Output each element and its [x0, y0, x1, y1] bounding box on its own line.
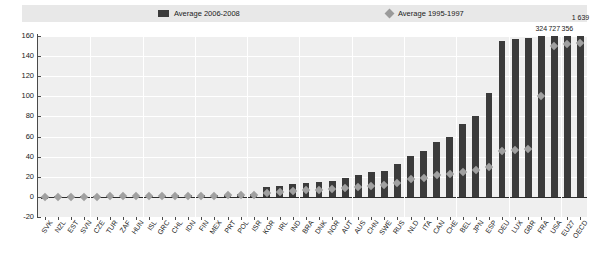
- gridline-vertical: [195, 36, 196, 217]
- gridline-vertical: [247, 36, 248, 217]
- diamond-icon: [485, 162, 493, 170]
- diamond-icon: [302, 186, 310, 194]
- data-point-marker: [264, 190, 270, 196]
- diamond-icon: [498, 146, 506, 154]
- x-tick-mark: [358, 217, 359, 220]
- data-point-marker: [355, 184, 361, 190]
- diamond-icon: [511, 145, 519, 153]
- legend-label-bar-series: Average 2006-2008: [174, 9, 240, 18]
- x-tick-mark: [149, 217, 150, 220]
- x-tick-mark: [424, 217, 425, 220]
- x-tick-mark: [580, 217, 581, 220]
- data-point-marker: [512, 147, 518, 153]
- data-point-marker: [421, 175, 427, 181]
- data-point-marker: [277, 189, 283, 195]
- y-tick-mark: [38, 116, 41, 117]
- data-point-marker: [473, 167, 479, 173]
- y-tick-mark: [38, 217, 41, 218]
- x-tick-mark: [254, 217, 255, 220]
- y-tick-label: 20: [2, 173, 34, 181]
- chart-container: Average 2006-2008 Average 1995-1997 -200…: [0, 0, 597, 259]
- chart-legend: Average 2006-2008 Average 1995-1997: [22, 5, 587, 22]
- data-point-marker: [198, 193, 204, 199]
- y-tick-mark: [38, 157, 41, 158]
- x-tick-label: NLD: [405, 219, 420, 235]
- x-tick-mark: [515, 217, 516, 220]
- x-tick-mark: [175, 217, 176, 220]
- y-tick-label: 100: [2, 92, 34, 100]
- y-tick-mark: [38, 36, 41, 37]
- bar-value-annotation: 1 639: [566, 14, 594, 22]
- x-tick-mark: [267, 217, 268, 220]
- y-tick-label: -20: [2, 213, 34, 221]
- legend-entry-marker-series: Average 1995-1997: [386, 5, 464, 22]
- x-tick-label: RUS: [392, 219, 407, 236]
- bar: [459, 124, 466, 196]
- y-tick-mark: [38, 76, 41, 77]
- data-point-marker: [447, 171, 453, 177]
- bar: [512, 39, 519, 197]
- data-point-marker: [81, 194, 87, 200]
- data-point-marker: [499, 148, 505, 154]
- diamond-icon: [210, 191, 218, 199]
- bar: [525, 38, 532, 197]
- y-tick-label: 160: [2, 32, 34, 40]
- data-point-marker: [329, 186, 335, 192]
- x-tick-mark: [71, 217, 72, 220]
- x-tick-mark: [463, 217, 464, 220]
- bar: [486, 93, 493, 197]
- data-point-marker: [172, 193, 178, 199]
- gridline-horizontal: [38, 36, 587, 37]
- y-tick-label: 60: [2, 133, 34, 141]
- diamond-icon: [563, 40, 571, 48]
- bar: [446, 137, 453, 197]
- x-tick-mark: [97, 217, 98, 220]
- data-point-marker: [94, 194, 100, 200]
- x-tick-label: CHN: [366, 219, 381, 236]
- data-point-marker: [42, 194, 48, 200]
- diamond-icon: [197, 192, 205, 200]
- x-tick-mark: [201, 217, 202, 220]
- x-tick-label: DEU: [497, 219, 512, 236]
- diamond-icon: [184, 192, 192, 200]
- y-tick-label: 120: [2, 72, 34, 80]
- diamond-icon: [119, 192, 127, 200]
- x-tick-label: SWE: [378, 219, 394, 237]
- x-tick-mark: [162, 217, 163, 220]
- diamond-icon: [93, 192, 101, 200]
- x-tick-label: BRA: [301, 219, 316, 235]
- legend-label-marker-series: Average 1995-1997: [398, 9, 464, 18]
- diamond-icon: [432, 171, 440, 179]
- diamond-icon: [550, 42, 558, 50]
- x-tick-label: LUX: [510, 219, 524, 235]
- x-tick-label: GRC: [156, 219, 171, 236]
- x-tick-label: BEL: [458, 219, 472, 234]
- diamond-icon: [576, 39, 584, 47]
- x-tick-label: ESP: [484, 219, 499, 235]
- x-tick-mark: [214, 217, 215, 220]
- data-point-marker: [120, 193, 126, 199]
- x-tick-mark: [397, 217, 398, 220]
- gridline-vertical: [90, 36, 91, 217]
- data-point-marker: [381, 182, 387, 188]
- diamond-icon: [40, 192, 48, 200]
- legend-entry-bar-series: Average 2006-2008: [158, 5, 240, 22]
- x-tick-label: PRT: [223, 219, 238, 235]
- bar: [433, 142, 440, 197]
- bar-value-annotation: 356: [553, 25, 581, 33]
- y-tick-mark: [38, 197, 41, 198]
- gridline-vertical: [299, 36, 300, 217]
- bar: [564, 36, 571, 197]
- x-tick-mark: [84, 217, 85, 220]
- x-tick-label: POL: [236, 219, 251, 235]
- data-point-marker: [303, 187, 309, 193]
- x-tick-mark: [332, 217, 333, 220]
- x-tick-mark: [554, 217, 555, 220]
- x-tick-label: CAN: [431, 219, 446, 236]
- y-tick-label: 0: [2, 193, 34, 201]
- x-tick-label: CHL: [170, 219, 185, 235]
- x-tick-mark: [437, 217, 438, 220]
- x-tick-label: MEX: [209, 219, 224, 236]
- x-tick-label: TUR: [105, 219, 120, 235]
- diamond-icon: [393, 179, 401, 187]
